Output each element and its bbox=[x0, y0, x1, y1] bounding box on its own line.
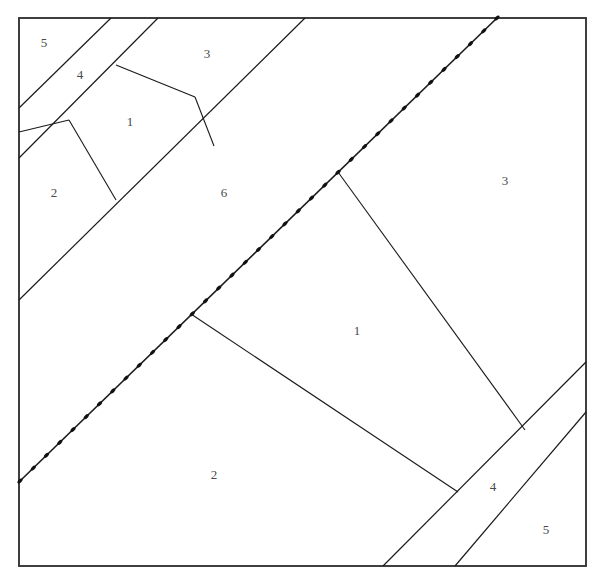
label-2-left: 2 bbox=[51, 185, 58, 200]
label-6-center: 6 bbox=[221, 185, 228, 200]
parcel-labels: 54312631245 bbox=[41, 35, 550, 537]
parcel-1-top-edge bbox=[116, 65, 195, 97]
parcel-1-lower-left-edge bbox=[19, 120, 69, 132]
parcel-map-figure: 54312631245 bbox=[0, 0, 608, 584]
parcel-map-canvas: 54312631245 bbox=[0, 0, 608, 584]
branch-to-road-lower bbox=[191, 314, 458, 492]
beaded-boundary-line bbox=[17, 15, 501, 485]
map-frame bbox=[19, 18, 586, 566]
boundary-lines bbox=[19, 18, 586, 566]
road-bottomright-lower-edge bbox=[455, 412, 586, 566]
label-5-bottomright: 5 bbox=[543, 522, 550, 537]
label-2-bottom: 2 bbox=[211, 467, 218, 482]
road-bottomright-upper-edge bbox=[383, 362, 586, 566]
label-3-top: 3 bbox=[204, 46, 211, 61]
parcel-1-right-edge bbox=[195, 97, 214, 146]
parcel-1-left-edge bbox=[69, 120, 116, 200]
road-topleft-lower-edge bbox=[19, 18, 111, 108]
label-3-right: 3 bbox=[502, 173, 509, 188]
label-5-topleft: 5 bbox=[41, 35, 48, 50]
label-1-center: 1 bbox=[354, 323, 361, 338]
label-1-topleft: 1 bbox=[127, 114, 134, 129]
label-4-topleft: 4 bbox=[77, 67, 84, 82]
road-topleft-inner-edge bbox=[19, 18, 305, 300]
branch-to-road-upper bbox=[338, 172, 525, 430]
label-4-bottomright: 4 bbox=[490, 479, 497, 494]
